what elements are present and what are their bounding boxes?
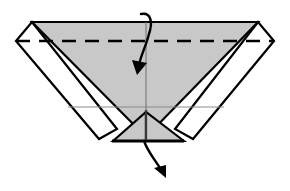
origami-figure <box>0 0 290 191</box>
origami-diagram-container <box>0 0 290 191</box>
